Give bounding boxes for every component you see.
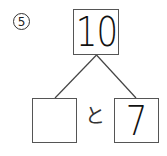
line-to-right-box [97,55,137,98]
part-number-box-right: 7 [114,98,159,143]
line-to-left-box [55,55,97,98]
whole-number: 10 [75,12,117,52]
problem-number: 5 [18,16,26,28]
right-part-number: 7 [126,101,147,141]
problem-number-badge: 5 [13,13,30,30]
answer-box-left[interactable] [32,98,77,143]
whole-number-box: 10 [73,9,119,55]
connector-text-to: と [85,106,105,126]
